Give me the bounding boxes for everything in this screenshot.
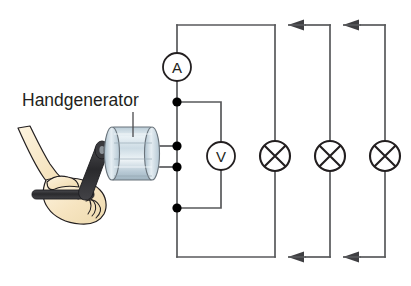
wire-volt-branch-top bbox=[177, 102, 221, 142]
handgenerator-label: Handgenerator bbox=[22, 90, 139, 111]
node-generator-minus bbox=[172, 162, 181, 171]
voltmeter: V bbox=[207, 142, 235, 170]
lamp-2 bbox=[315, 141, 345, 171]
wire-volt-branch-bottom bbox=[177, 170, 221, 208]
node-generator-plus bbox=[172, 141, 181, 150]
handgenerator-illustration bbox=[18, 112, 160, 224]
circuit-wires-layer: A V bbox=[0, 0, 411, 286]
generator-endcap-left bbox=[105, 127, 120, 180]
node-bottom-terminal bbox=[172, 203, 181, 212]
generator-endcap-right bbox=[145, 127, 160, 180]
current-arrows-group bbox=[288, 20, 359, 263]
lamp-3 bbox=[370, 141, 400, 171]
ammeter-symbol: A bbox=[172, 59, 182, 76]
voltmeter-symbol: V bbox=[216, 148, 226, 165]
ammeter: A bbox=[163, 53, 191, 81]
lamp-1 bbox=[260, 141, 290, 171]
circuit-diagram-canvas: A V bbox=[0, 0, 411, 286]
node-top-terminal bbox=[172, 97, 181, 106]
